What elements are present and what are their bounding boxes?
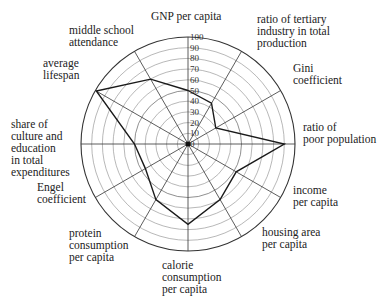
axis-spoke xyxy=(135,51,189,144)
tick-label: 0 xyxy=(190,139,195,149)
axis-spoke xyxy=(95,144,188,198)
axis-label: share of culture and education in total … xyxy=(11,118,70,178)
axis-label: housing area per capita xyxy=(262,226,320,250)
tick-label: 10 xyxy=(190,128,200,138)
tick-label: 70 xyxy=(190,64,200,74)
axis-label: middle school attendance xyxy=(69,24,134,48)
axis-label: calorie consumption per capita xyxy=(162,259,221,295)
tick-label: 90 xyxy=(190,43,200,53)
center-dot xyxy=(186,142,191,147)
axis-spoke xyxy=(188,144,242,237)
tick-label: 80 xyxy=(190,53,200,63)
tick-label: 20 xyxy=(190,118,200,128)
axis-label: ratio of tertiary industry in total prod… xyxy=(257,13,330,49)
axis-label: Engel coefficient xyxy=(37,181,86,205)
tick-label: 40 xyxy=(190,96,200,106)
axis-label: average lifespan xyxy=(43,57,79,81)
tick-label: 30 xyxy=(190,107,200,117)
tick-label: 100 xyxy=(190,32,204,42)
axis-spoke xyxy=(188,144,281,198)
axis-label: protein consumption per capita xyxy=(69,227,128,263)
tick-label: 60 xyxy=(190,75,200,85)
axis-label: GNP per capita xyxy=(151,10,221,22)
axis-label: ratio of poor population xyxy=(303,121,376,145)
axis-spoke xyxy=(135,144,189,237)
axis-label: income per capita xyxy=(293,184,338,208)
radial-tick-labels: 0102030405060708090100 xyxy=(190,32,204,149)
axis-label: Gini coefficient xyxy=(293,62,342,86)
axis-spoke xyxy=(95,91,188,145)
